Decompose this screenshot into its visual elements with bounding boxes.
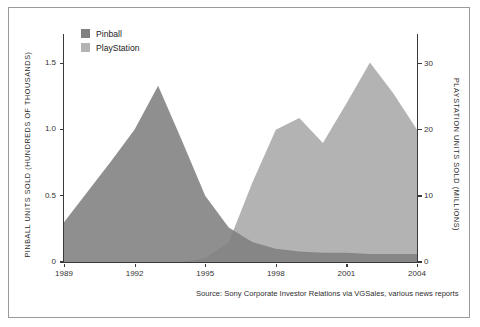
y-tick-right-3 [418,63,422,64]
y-tick-left-2 [60,129,64,130]
source-note: Source: Sony Corporate Investor Relation… [196,289,459,298]
y-ticklabel-left-0: 0 [30,257,56,266]
y-tick-right-2 [418,129,422,130]
x-tick-1 [135,264,136,268]
legend-swatch-playstation [81,43,90,52]
chart-figure: PINBALL UNITS SOLD (HUNDREDS OF THOUSAND… [0,0,480,327]
x-ticklabel-2: 1995 [185,269,225,278]
y-axis-right-title: PLAYSTATION UNITS SOLD (MILLIONS) [452,35,461,275]
legend-item-playstation: PlayStation [81,42,139,53]
y-tick-right-1 [418,195,422,196]
x-ticklabel-5: 2004 [397,269,437,278]
y-ticklabel-left-1: 0.5 [30,191,56,200]
x-tick-2 [205,264,206,268]
y-tick-left-3 [60,63,64,64]
y-axis-left-title: PINBALL UNITS SOLD (HUNDREDS OF THOUSAND… [23,35,32,275]
x-tick-4 [346,264,347,268]
y-tick-left-0 [60,261,64,262]
x-ticklabel-1: 1992 [115,269,155,278]
legend-swatch-pinball [81,29,90,38]
legend-label-playstation: PlayStation [96,43,139,53]
chart-legend: Pinball PlayStation [81,28,139,56]
x-tick-0 [64,264,65,268]
y-ticklabel-left-3: 1.5 [30,58,56,67]
y-ticklabel-left-2: 1.0 [30,124,56,133]
x-ticklabel-4: 2001 [326,269,366,278]
plot-area [64,34,417,262]
y-ticklabel-right-2: 20 [424,125,450,134]
y-axis-left-line [63,34,64,263]
legend-label-pinball: Pinball [96,29,122,39]
y-ticklabel-right-1: 10 [424,191,450,200]
x-ticklabel-3: 1998 [256,269,296,278]
x-ticklabel-0: 1989 [44,269,84,278]
y-ticklabel-right-0: 0 [424,257,450,266]
x-tick-5 [417,264,418,268]
y-tick-left-1 [60,195,64,196]
y-tick-right-0 [418,261,422,262]
x-tick-3 [276,264,277,268]
y-axis-right-line [417,34,418,263]
y-ticklabel-right-3: 30 [424,59,450,68]
legend-item-pinball: Pinball [81,28,139,39]
area-chart-svg [64,34,417,262]
x-axis-line [63,262,418,263]
